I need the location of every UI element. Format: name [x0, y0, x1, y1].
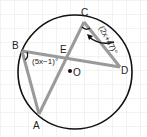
center-point	[68, 69, 72, 73]
label-O: O	[73, 68, 81, 78]
label-D: D	[121, 66, 128, 76]
angle-B-label: (5x−1)°	[32, 58, 58, 66]
label-B: B	[12, 41, 19, 51]
label-A: A	[33, 121, 40, 131]
label-E: E	[60, 45, 67, 55]
label-C: C	[81, 8, 88, 18]
